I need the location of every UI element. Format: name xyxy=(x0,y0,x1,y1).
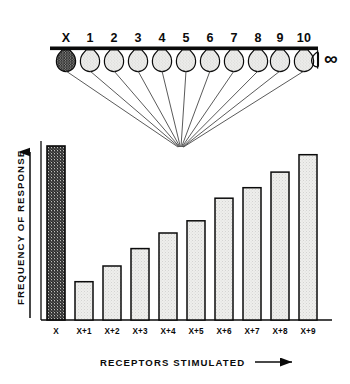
receptor-5 xyxy=(176,50,195,147)
x-tick-x+2: X+2 xyxy=(104,327,119,336)
bar-x+7 xyxy=(243,188,261,320)
x-tick-x+9: X+9 xyxy=(300,327,315,336)
x-axis-title: RECEPTORS STIMULATED xyxy=(100,357,245,368)
receptor-cell-2 xyxy=(104,50,123,72)
axon-7 xyxy=(182,71,234,147)
receptor-label-9: 9 xyxy=(276,31,283,45)
receptor-cell-8 xyxy=(248,50,267,72)
receptor-cell-1 xyxy=(80,50,99,72)
x-tick-x+8: X+8 xyxy=(272,327,287,336)
axon-x xyxy=(66,71,178,147)
x-tick-x+3: X+3 xyxy=(132,327,147,336)
receptor-label-8: 8 xyxy=(254,31,261,45)
x-tick-x+5: X+5 xyxy=(188,327,203,336)
axon-3 xyxy=(138,71,180,147)
receptor-cell-6 xyxy=(200,50,219,72)
figure-root: X 1 2 3 4 5 6 7 8 9 10 xyxy=(0,0,350,384)
bar-x+1 xyxy=(75,282,93,320)
y-axis-title: FREQUENCY OF RESPONSE xyxy=(15,150,26,305)
receptor-cell-10 xyxy=(294,50,313,72)
axon-8 xyxy=(183,71,259,147)
receptor-label-5: 5 xyxy=(182,31,189,45)
bar-x+6 xyxy=(215,198,233,320)
bar-x+4 xyxy=(159,233,177,320)
receptor-label-4: 4 xyxy=(158,31,165,45)
bar-x+2 xyxy=(103,266,121,320)
continuation-marker: ∞ xyxy=(312,48,338,69)
receptor-cell-9 xyxy=(270,50,289,72)
axon-9 xyxy=(183,71,280,147)
axon-4 xyxy=(162,71,180,147)
bar-x+8 xyxy=(271,172,289,320)
receptor-cell-7 xyxy=(224,50,243,72)
bar-x xyxy=(47,146,65,320)
x-tick-x+6: X+6 xyxy=(216,327,231,336)
infinity-symbol: ∞ xyxy=(324,48,338,69)
axon-10 xyxy=(184,71,305,147)
bar-x+9 xyxy=(299,155,317,320)
x-tick-x+1: X+1 xyxy=(76,327,91,336)
x-tick-x+4: X+4 xyxy=(160,327,175,336)
x-tick-x: X xyxy=(53,327,59,336)
axon-5 xyxy=(181,71,186,147)
neurophysiology-figure: X 1 2 3 4 5 6 7 8 9 10 xyxy=(0,0,350,384)
bar-x+5 xyxy=(187,221,205,320)
receptor-index-labels: X 1 2 3 4 5 6 7 8 9 10 xyxy=(62,31,311,45)
x-axis-tick-labels: X X+1 X+2 X+3 X+4 X+5 X+6 X+7 X+8 X+9 xyxy=(53,327,316,336)
receptor-label-2: 2 xyxy=(110,31,117,45)
receptor-cell-3 xyxy=(128,50,147,72)
receptor-cells xyxy=(56,50,313,147)
x-tick-x+7: X+7 xyxy=(244,327,259,336)
receptor-label-10: 10 xyxy=(297,31,311,45)
bars xyxy=(47,146,317,320)
receptor-label-3: 3 xyxy=(134,31,141,45)
receptor-label-7: 7 xyxy=(230,31,237,45)
axon-6 xyxy=(182,71,210,147)
receptor-label-6: 6 xyxy=(206,31,213,45)
bar-chart-panel: FREQUENCY OF RESPONSE X X+1 xyxy=(15,141,332,368)
axon-2 xyxy=(114,71,180,147)
receptor-array-panel: X 1 2 3 4 5 6 7 8 9 10 xyxy=(50,31,338,147)
axon-1 xyxy=(90,71,179,147)
bar-x+3 xyxy=(131,249,149,320)
receptor-cell-5 xyxy=(176,50,195,72)
receptor-cell-4 xyxy=(152,50,171,72)
receptor-label-x: X xyxy=(62,31,71,45)
receptor-cell-x xyxy=(56,50,75,72)
receptor-label-1: 1 xyxy=(86,31,93,45)
